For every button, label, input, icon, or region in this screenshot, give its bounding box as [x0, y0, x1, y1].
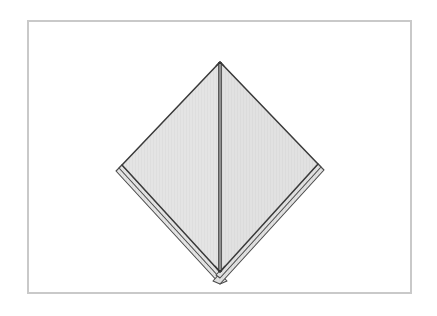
illustration-canvas — [0, 0, 437, 316]
left-panel — [122, 62, 220, 272]
folded-paper-diamond — [0, 0, 437, 316]
vertical-centre-crease — [219, 62, 221, 272]
right-panel — [220, 62, 318, 272]
